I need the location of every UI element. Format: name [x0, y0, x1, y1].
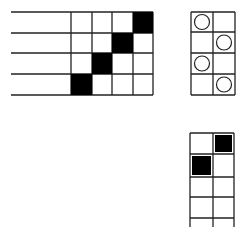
filled-square [92, 53, 112, 74]
right-grid [191, 12, 235, 95]
circle-marker [195, 15, 210, 30]
circle-marker [217, 77, 232, 92]
filled-square [133, 12, 153, 33]
circle-marker [217, 35, 232, 50]
filled-square [112, 33, 133, 53]
bottom-grid [190, 133, 234, 227]
filled-square [192, 156, 211, 175]
circle-marker [195, 56, 210, 71]
left-grid [11, 12, 153, 95]
filled-square [71, 74, 92, 95]
diagram-canvas [0, 0, 252, 238]
filled-square [215, 135, 232, 152]
